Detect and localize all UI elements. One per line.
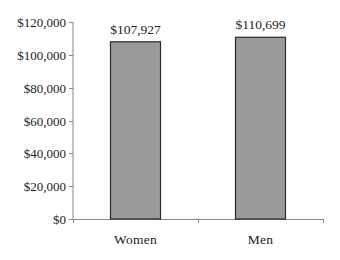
bar-value-label: $110,699 <box>235 17 285 32</box>
bar-chart: $0$20,000$40,000$60,000$80,000$100,000$1… <box>0 0 340 260</box>
x-category-label: Women <box>114 232 157 247</box>
y-tick-label: $60,000 <box>24 114 66 129</box>
y-tick-label: $40,000 <box>24 146 66 161</box>
y-tick-label: $0 <box>53 212 66 227</box>
y-tick-label: $80,000 <box>24 81 66 96</box>
bars: $107,927$110,699 <box>110 17 286 219</box>
bar-men: $110,699 <box>235 17 285 219</box>
bar-rect <box>236 37 286 219</box>
bar-value-label: $107,927 <box>110 22 161 37</box>
bar-rect <box>111 42 161 219</box>
y-axis: $0$20,000$40,000$60,000$80,000$100,000$1… <box>17 15 73 227</box>
bar-women: $107,927 <box>110 22 161 219</box>
y-tick-label: $20,000 <box>24 179 66 194</box>
x-axis: WomenMen <box>73 219 324 247</box>
x-category-label: Men <box>248 232 274 247</box>
y-tick-label: $120,000 <box>17 15 66 30</box>
y-tick-label: $100,000 <box>17 48 66 63</box>
